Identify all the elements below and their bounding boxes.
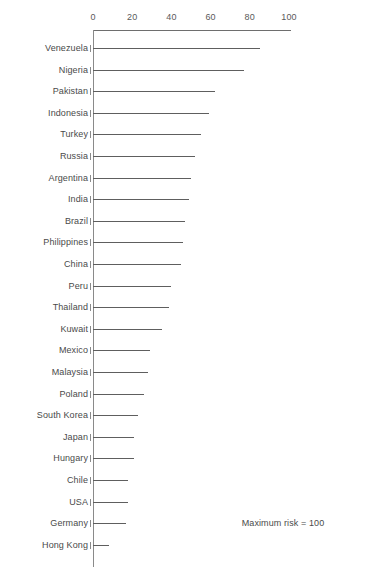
category-label: Poland xyxy=(2,387,88,401)
bar xyxy=(93,221,185,222)
bar xyxy=(93,458,134,459)
chart-row: Turkey xyxy=(0,127,379,141)
category-tick xyxy=(90,369,91,376)
category-tick xyxy=(90,391,91,398)
bar xyxy=(93,502,128,503)
x-tick-80: 80 xyxy=(245,12,255,22)
category-label: Argentina xyxy=(2,171,88,185)
category-tick xyxy=(90,347,91,354)
chart-row: Hong Kong xyxy=(0,538,379,552)
bar xyxy=(93,350,150,351)
category-tick xyxy=(90,499,91,506)
category-tick xyxy=(90,261,91,268)
category-label: Kuwait xyxy=(2,322,88,336)
chart-row: India xyxy=(0,192,379,206)
chart-row: Pakistan xyxy=(0,84,379,98)
chart-row: Kuwait xyxy=(0,322,379,336)
bar xyxy=(93,329,162,330)
category-tick xyxy=(90,218,91,225)
chart-row: Brazil xyxy=(0,214,379,228)
bar xyxy=(93,394,144,395)
category-tick xyxy=(90,326,91,333)
chart-row: Nigeria xyxy=(0,63,379,77)
category-tick xyxy=(90,88,91,95)
category-label: India xyxy=(2,192,88,206)
category-tick xyxy=(90,153,91,160)
bar xyxy=(93,523,126,524)
chart-row: Philippines xyxy=(0,235,379,249)
x-tick-40: 40 xyxy=(166,12,176,22)
category-label: Hungary xyxy=(2,451,88,465)
category-label: Pakistan xyxy=(2,84,88,98)
category-tick xyxy=(90,304,91,311)
category-tick xyxy=(90,434,91,441)
chart-row: Poland xyxy=(0,387,379,401)
chart-row: Thailand xyxy=(0,300,379,314)
max-risk-annotation: Maximum risk = 100 xyxy=(242,518,325,528)
x-tick-60: 60 xyxy=(205,12,215,22)
category-tick xyxy=(90,45,91,52)
chart-row: Mexico xyxy=(0,343,379,357)
category-label: USA xyxy=(2,495,88,509)
chart-row: Hungary xyxy=(0,451,379,465)
chart-row: Indonesia xyxy=(0,106,379,120)
bar xyxy=(93,545,109,546)
chart-row: China xyxy=(0,257,379,271)
category-label: Brazil xyxy=(2,214,88,228)
category-label: Hong Kong xyxy=(2,538,88,552)
category-tick xyxy=(90,542,91,549)
chart-row: USA xyxy=(0,495,379,509)
category-tick xyxy=(90,175,91,182)
category-label: Philippines xyxy=(2,235,88,249)
category-label: Mexico xyxy=(2,343,88,357)
category-label: South Korea xyxy=(2,408,88,422)
bar xyxy=(93,372,148,373)
x-tick-100: 100 xyxy=(281,12,297,22)
category-tick xyxy=(90,455,91,462)
chart-row: Russia xyxy=(0,149,379,163)
category-label: Chile xyxy=(2,473,88,487)
category-label: Germany xyxy=(2,516,88,530)
bar xyxy=(93,199,189,200)
category-tick xyxy=(90,412,91,419)
category-tick xyxy=(90,110,91,117)
category-label: Indonesia xyxy=(2,106,88,120)
bar xyxy=(93,307,169,308)
category-tick xyxy=(90,283,91,290)
x-axis-line xyxy=(93,30,291,31)
bar xyxy=(93,91,215,92)
category-label: Japan xyxy=(2,430,88,444)
category-label: Russia xyxy=(2,149,88,163)
bar xyxy=(93,70,244,71)
bar xyxy=(93,156,195,157)
bar xyxy=(93,286,171,287)
category-tick xyxy=(90,196,91,203)
category-tick xyxy=(90,131,91,138)
bar xyxy=(93,48,260,49)
category-label: Turkey xyxy=(2,127,88,141)
chart-row: Venezuela xyxy=(0,41,379,55)
category-label: Peru xyxy=(2,279,88,293)
category-label: Nigeria xyxy=(2,63,88,77)
chart-row: Chile xyxy=(0,473,379,487)
bar xyxy=(93,437,134,438)
bar xyxy=(93,134,201,135)
bar xyxy=(93,264,181,265)
category-label: China xyxy=(2,257,88,271)
category-tick xyxy=(90,239,91,246)
chart-row: Malaysia xyxy=(0,365,379,379)
bar xyxy=(93,178,191,179)
chart-row: Peru xyxy=(0,279,379,293)
bar xyxy=(93,415,138,416)
category-tick xyxy=(90,477,91,484)
x-tick-0: 0 xyxy=(90,12,95,22)
chart-row: Argentina xyxy=(0,171,379,185)
chart-row: South Korea xyxy=(0,408,379,422)
x-tick-20: 20 xyxy=(127,12,137,22)
category-label: Venezuela xyxy=(2,41,88,55)
category-label: Malaysia xyxy=(2,365,88,379)
category-tick xyxy=(90,67,91,74)
bar xyxy=(93,242,183,243)
bar xyxy=(93,113,209,114)
